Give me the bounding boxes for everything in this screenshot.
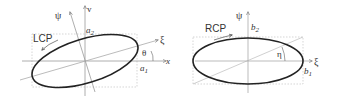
- v-label: v: [87, 4, 92, 14]
- theta-label: θ: [142, 48, 146, 58]
- eta-label: η: [277, 49, 282, 59]
- psi-label: ψ: [55, 10, 62, 21]
- psi-label: ψ: [236, 10, 243, 21]
- polarization-ellipse-diagram: LCP ψ v ξ x θ a2 a1 RCP ψ ξ η b2 b1: [0, 0, 339, 97]
- xi-label: ξ: [160, 34, 165, 46]
- xi-label: ξ: [314, 56, 319, 68]
- theta-arc: [151, 51, 153, 61]
- rcp-label: RCP: [205, 23, 226, 34]
- right-panel-rcp: RCP ψ ξ η b2 b1: [193, 10, 319, 93]
- eta-arc: [282, 47, 285, 61]
- left-panel-lcp: LCP ψ v ξ x θ a2 a1: [20, 4, 170, 97]
- a1-label: a1: [140, 63, 148, 75]
- x-label: x: [165, 56, 170, 66]
- b1-label: b1: [304, 66, 312, 78]
- psi-axis: [70, 12, 95, 92]
- a2-label: a2: [86, 25, 95, 37]
- b2-label: b2: [251, 22, 260, 34]
- lcp-label: LCP: [33, 33, 53, 44]
